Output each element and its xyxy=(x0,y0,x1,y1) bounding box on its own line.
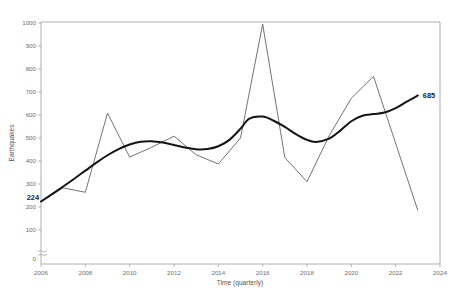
x-tick-label: 2016 xyxy=(256,269,270,276)
x-tick-label: 2022 xyxy=(389,269,403,276)
y-tick-label: 700 xyxy=(26,88,37,95)
x-tick-label: 2020 xyxy=(344,269,358,276)
y-tick-label: 600 xyxy=(26,111,37,118)
x-tick-label: 2014 xyxy=(211,269,225,276)
y-tick-label: 200 xyxy=(26,203,37,210)
annotation-end-value: 685 xyxy=(423,91,435,100)
x-tick-label: 2018 xyxy=(300,269,314,276)
y-tick-label: 500 xyxy=(26,134,37,141)
y-tick-label: 900 xyxy=(26,42,37,49)
y-tick-label: 0 xyxy=(33,255,37,262)
annotation-start-value: 224 xyxy=(27,193,40,202)
y-tick-label: 400 xyxy=(26,157,37,164)
x-tick-label: 2010 xyxy=(123,269,137,276)
y-tick-label: 800 xyxy=(26,65,37,72)
y-tick-label: 100 xyxy=(26,226,37,233)
x-tick-label: 2006 xyxy=(34,269,48,276)
earthquakes-line-chart: 01002003004005006007008009001000 2006200… xyxy=(0,0,459,302)
chart-container: 01002003004005006007008009001000 2006200… xyxy=(0,0,459,302)
y-tick-label: 1000 xyxy=(22,19,36,26)
x-tick-label: 2008 xyxy=(78,269,92,276)
y-axis-title: Earthquakes xyxy=(8,124,16,162)
x-tick-label: 2012 xyxy=(167,269,181,276)
x-tick-label: 2024 xyxy=(433,269,447,276)
y-tick-label: 300 xyxy=(26,180,37,187)
x-axis-title: Time (quarterly) xyxy=(217,279,263,287)
